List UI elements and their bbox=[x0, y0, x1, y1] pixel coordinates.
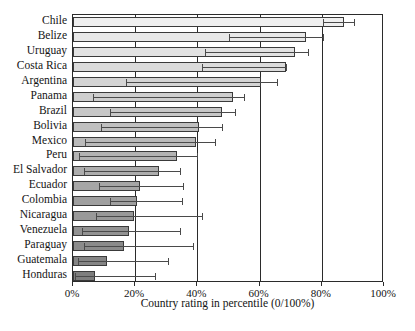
y-axis-label-ecuador: Ecuador bbox=[29, 179, 67, 191]
error-bar-cap bbox=[183, 183, 184, 190]
error-bar-cap bbox=[202, 213, 203, 220]
error-bar-cap bbox=[180, 168, 181, 175]
interval-inner-line bbox=[99, 186, 139, 187]
error-bar-whisker bbox=[196, 142, 215, 143]
interval-inner-line bbox=[202, 67, 286, 68]
error-bar-whisker bbox=[159, 171, 181, 172]
error-bar-cap bbox=[308, 49, 309, 56]
bar-row bbox=[73, 151, 382, 161]
error-bar-whisker bbox=[107, 261, 168, 262]
bar-row bbox=[73, 226, 382, 236]
bar-row bbox=[73, 241, 382, 251]
error-bar-cap bbox=[244, 94, 245, 101]
error-bar-whisker bbox=[199, 127, 222, 128]
y-axis-label-el-salvador: El Salvador bbox=[13, 164, 67, 176]
y-axis-label-panama: Panama bbox=[31, 90, 67, 102]
error-bar-cap bbox=[168, 258, 169, 265]
y-axis-label-nicaragua: Nicaragua bbox=[20, 209, 67, 221]
interval-inner-line bbox=[96, 216, 133, 217]
interval-inner-line bbox=[101, 127, 199, 128]
interval-inner-line bbox=[79, 156, 177, 157]
bar-row bbox=[73, 122, 382, 132]
bar-row bbox=[73, 166, 382, 176]
error-bar-cap bbox=[323, 34, 324, 41]
y-axis-label-venezuela: Venezuela bbox=[20, 224, 67, 236]
plot-area bbox=[72, 14, 383, 282]
interval-inner-line bbox=[110, 201, 136, 202]
x-tick-mark-60 bbox=[259, 282, 260, 286]
interval-inner-line bbox=[84, 246, 124, 247]
bar-row bbox=[73, 107, 382, 117]
y-axis-label-costa-rica: Costa Rica bbox=[17, 60, 67, 72]
interval-inner-line bbox=[78, 261, 108, 262]
y-axis-label-guatemala: Guatemala bbox=[17, 254, 67, 266]
y-axis-category-labels: ChileBelizeUruguayCosta RicaArgentinaPan… bbox=[0, 14, 70, 282]
interval-inner-line bbox=[84, 171, 159, 172]
x-tick-mark-80 bbox=[321, 282, 322, 286]
interval-inner-line bbox=[93, 97, 233, 98]
bar-row bbox=[73, 271, 382, 281]
bar-row bbox=[73, 32, 382, 42]
bar-row bbox=[73, 77, 382, 87]
error-bar-whisker bbox=[177, 156, 197, 157]
y-axis-label-brazil: Brazil bbox=[39, 105, 67, 117]
error-bar-cap bbox=[354, 19, 355, 26]
interval-inner-line bbox=[75, 276, 95, 277]
error-bar-whisker bbox=[344, 22, 355, 23]
error-bar-cap bbox=[235, 109, 236, 116]
y-axis-label-uruguay: Uruguay bbox=[27, 45, 67, 57]
error-bar-whisker bbox=[124, 246, 192, 247]
error-bar-whisker bbox=[306, 37, 323, 38]
error-bar-cap bbox=[222, 124, 223, 131]
error-bar-whisker bbox=[95, 276, 156, 277]
error-bar-whisker bbox=[134, 216, 202, 217]
y-axis-label-honduras: Honduras bbox=[22, 269, 67, 281]
chart-figure: ChileBelizeUruguayCosta RicaArgentinaPan… bbox=[0, 0, 415, 331]
y-axis-label-colombia: Colombia bbox=[22, 194, 67, 206]
bar-row bbox=[73, 62, 382, 72]
error-bar-whisker bbox=[222, 112, 234, 113]
y-axis-label-bolivia: Bolivia bbox=[33, 120, 67, 132]
error-bar-cap bbox=[180, 228, 181, 235]
interval-inner-line bbox=[110, 112, 222, 113]
interval-inner-line bbox=[323, 22, 343, 23]
x-tick-mark-0 bbox=[72, 282, 73, 286]
error-bar-whisker bbox=[261, 82, 277, 83]
interval-inner-line bbox=[85, 142, 195, 143]
interval-inner-line bbox=[82, 231, 129, 232]
y-axis-label-mexico: Mexico bbox=[32, 135, 67, 147]
interval-inner-line bbox=[126, 82, 261, 83]
bar-row bbox=[73, 196, 382, 206]
error-bar-cap bbox=[277, 79, 278, 86]
interval-inner-line bbox=[229, 37, 307, 38]
error-bar-cap bbox=[193, 243, 194, 250]
error-bar-whisker bbox=[140, 186, 184, 187]
error-bar-cap bbox=[155, 273, 156, 280]
error-bar-whisker bbox=[129, 231, 180, 232]
error-bar-cap bbox=[182, 198, 183, 205]
error-bar-cap bbox=[286, 64, 287, 71]
x-tick-mark-100 bbox=[383, 282, 384, 286]
bar-row bbox=[73, 211, 382, 221]
y-axis-label-belize: Belize bbox=[38, 30, 67, 42]
y-axis-label-paraguay: Paraguay bbox=[24, 239, 67, 251]
y-axis-label-argentina: Argentina bbox=[21, 75, 67, 87]
error-bar-whisker bbox=[233, 97, 244, 98]
bar-row bbox=[73, 256, 382, 266]
bar-row bbox=[73, 92, 382, 102]
error-bar-whisker bbox=[295, 52, 307, 53]
error-bar-whisker bbox=[137, 201, 182, 202]
x-tick-mark-20 bbox=[134, 282, 135, 286]
x-tick-mark-40 bbox=[196, 282, 197, 286]
bar-row bbox=[73, 47, 382, 57]
bar-row bbox=[73, 181, 382, 191]
bar bbox=[73, 17, 344, 27]
interval-inner-line bbox=[205, 52, 295, 53]
x-axis-title: Country rating in percentile (0/100%) bbox=[72, 297, 383, 309]
y-axis-label-chile: Chile bbox=[42, 15, 67, 27]
y-axis-label-peru: Peru bbox=[46, 149, 67, 161]
error-bar-cap bbox=[215, 139, 216, 146]
error-bar-cap bbox=[197, 153, 198, 160]
bar-row bbox=[73, 17, 382, 27]
bar-row bbox=[73, 137, 382, 147]
